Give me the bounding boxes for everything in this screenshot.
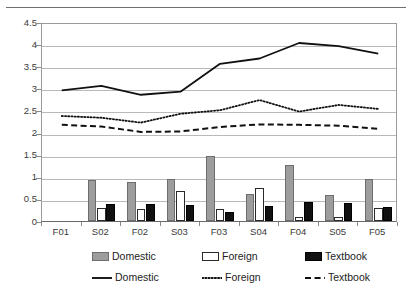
legend-label: Domestic	[112, 250, 156, 263]
legend-item-line-domestic[interactable]: Domestic	[92, 267, 159, 287]
y-axis-tick-label: 0.5	[4, 194, 37, 204]
y-axis-tick-label: 1	[4, 172, 37, 182]
x-axis-tick-label: S02	[81, 226, 121, 238]
x-axis-tick-label: S03	[160, 226, 200, 238]
legend-label: Textbook	[325, 250, 367, 263]
line-series-layer	[42, 24, 398, 223]
legend-item-bar-foreign[interactable]: Foreign	[202, 246, 258, 266]
x-axis-tick-label: S04	[239, 226, 279, 238]
legend-row-lines: DomesticForeignTextbook	[41, 267, 397, 287]
x-axis-tick-label: F01	[41, 226, 81, 238]
bar-white-swatch	[202, 252, 219, 261]
legend-label: Foreign	[222, 250, 258, 263]
legend-label: Textbook	[328, 271, 370, 284]
solid-line-swatch	[92, 273, 112, 282]
y-axis-tick-label: 3	[4, 84, 37, 94]
y-axis-tick-label: 3.5	[4, 62, 37, 72]
x-axis-tick-label: F02	[120, 226, 160, 238]
dashed-line-swatch	[305, 273, 325, 282]
y-axis-tick-label: 4	[4, 40, 37, 50]
legend-label: Domestic	[115, 271, 159, 284]
legend-item-bar-domestic[interactable]: Domestic	[92, 246, 156, 266]
legend-label: Foreign	[225, 271, 261, 284]
top-divider-rule	[6, 7, 406, 8]
x-axis-tick-mark	[397, 222, 398, 226]
x-axis-tick-label: S05	[318, 226, 358, 238]
y-axis-tick-label: 2.5	[4, 106, 37, 116]
x-axis-tick-label: F04	[278, 226, 318, 238]
legend-item-bar-textbook[interactable]: Textbook	[305, 246, 367, 266]
y-axis-tick-label: 2	[4, 128, 37, 138]
line-domestic	[62, 43, 378, 95]
x-axis-tick-label: F05	[357, 226, 397, 238]
chart-legend: DomesticForeignTextbook DomesticForeignT…	[41, 246, 397, 290]
legend-row-bars: DomesticForeignTextbook	[41, 246, 397, 266]
chart-figure: 00.511.522.533.544.5 F01S02F02S03F03S04F…	[0, 0, 413, 295]
y-axis-tick-label: 0	[4, 217, 37, 227]
dotted-line-swatch	[202, 273, 222, 282]
y-axis-tick-label: 1.5	[4, 150, 37, 160]
plot-area	[41, 23, 397, 222]
y-axis-tick-label: 4.5	[4, 18, 37, 28]
bar-gray-swatch	[92, 252, 109, 261]
y-axis: 00.511.522.533.544.5	[0, 0, 37, 295]
legend-item-line-foreign[interactable]: Foreign	[202, 267, 261, 287]
line-textbook	[62, 124, 378, 132]
x-axis-tick-label: F03	[199, 226, 239, 238]
legend-item-line-textbook[interactable]: Textbook	[305, 267, 370, 287]
x-axis: F01S02F02S03F03S04F04S05F05	[41, 226, 397, 242]
line-foreign	[62, 100, 378, 123]
bar-black-swatch	[305, 252, 322, 261]
